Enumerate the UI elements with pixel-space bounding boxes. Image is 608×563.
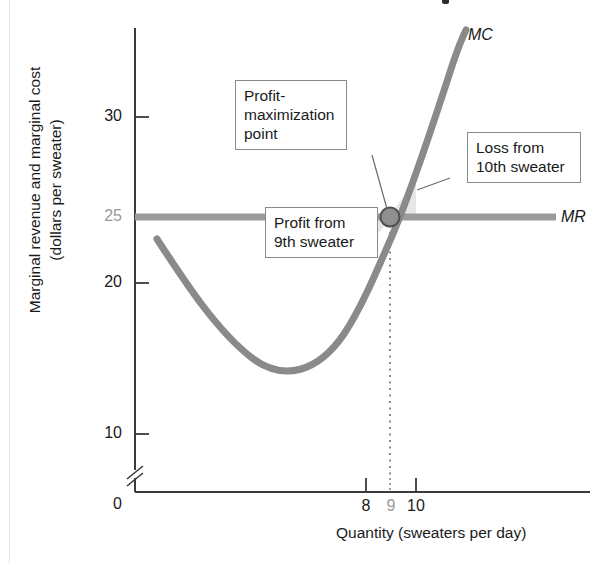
y-tick-label-25: 25 — [78, 207, 122, 225]
y-tick-label-30: 30 — [78, 107, 122, 125]
profit-max-callout: Profit- maximization point — [235, 80, 347, 150]
profit-callout: Profit from 9th sweater — [265, 207, 378, 258]
marginal-analysis-figure: 30 25 20 10 0 8 9 10 Marginal revenue an… — [0, 0, 608, 563]
profit-max-callout-line-1: Profit- — [244, 86, 338, 105]
y-tick-label-20: 20 — [78, 273, 122, 291]
x-tick-label-10: 10 — [400, 497, 432, 515]
profit-max-callout-leader — [372, 155, 387, 209]
profit-maximization-point-marker — [381, 208, 400, 227]
profit-callout-line-1: Profit from — [274, 213, 369, 232]
y-axis-title-line-2: (dollars per sweater) — [45, 50, 66, 330]
profit-callout-line-2: 9th sweater — [274, 232, 369, 251]
y-axis-title-line-1: Marginal revenue and marginal cost — [24, 50, 45, 330]
mc-curve-label: MC — [468, 26, 493, 44]
loss-callout: Loss from 10th sweater — [467, 132, 581, 183]
loss-callout-line-2: 10th sweater — [476, 157, 572, 176]
x-axis-title: Quantity (sweaters per day) — [336, 524, 526, 542]
y-tick-label-10: 10 — [78, 424, 122, 442]
y-axis-title: Marginal revenue and marginal cost (doll… — [24, 50, 68, 330]
profit-max-callout-line-2: maximization — [244, 105, 338, 124]
page-artifact-mark — [442, 0, 449, 4]
loss-callout-line-1: Loss from — [476, 138, 572, 157]
mr-curve-label: MR — [561, 208, 586, 226]
page-edge-line — [9, 0, 10, 563]
origin-label: 0 — [78, 495, 122, 513]
loss-callout-leader — [417, 178, 450, 190]
profit-max-callout-line-3: point — [244, 124, 338, 143]
